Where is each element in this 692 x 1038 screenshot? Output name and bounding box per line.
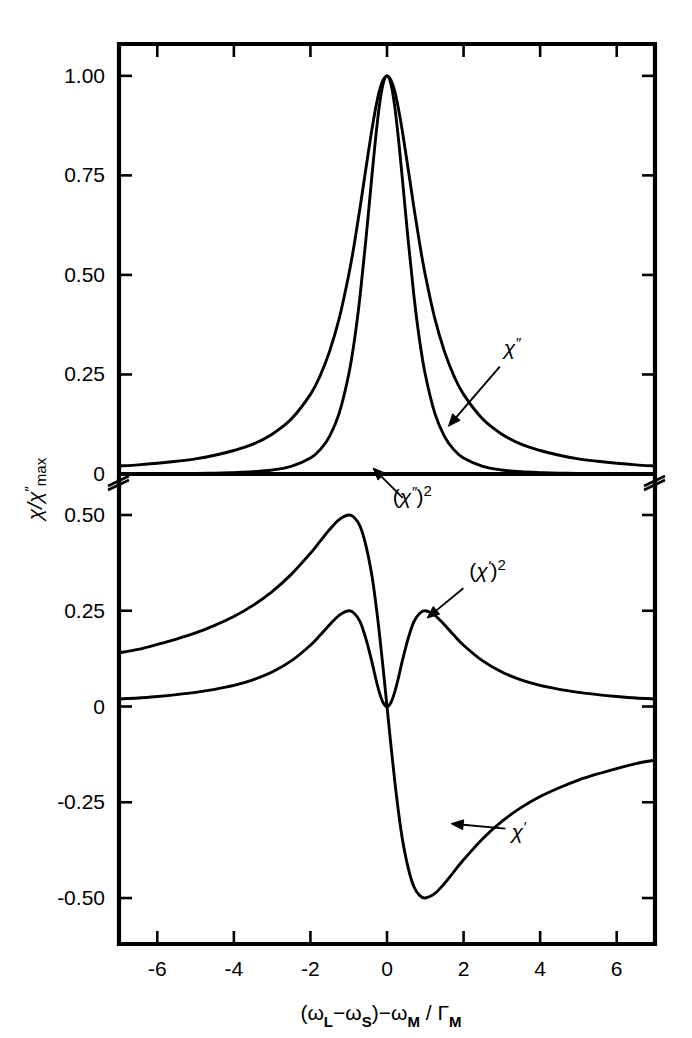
xtick-label: -6 — [148, 957, 167, 980]
plot-frames: 00.250.500.751.00-0.50-0.2500.250.50-6-4… — [21, 44, 665, 1030]
ytick-label-upper: 0.50 — [64, 263, 105, 286]
lower-panel-xticks: -6-4-20246χ″ (χ″ )2(χ′ )2χ′ χ/χ″max(ωL −… — [21, 76, 655, 1030]
susceptibility-lineshape-figure: 00.250.500.751.00-0.50-0.2500.250.50-6-4… — [0, 0, 692, 1038]
xtick-label: 0 — [381, 957, 393, 980]
curve- — [119, 76, 655, 474]
lower-panel-yticks: -0.50-0.2500.250.50-6-4-20246χ″ (χ″ )2(χ… — [21, 76, 655, 1030]
ytick-label-upper: 0.25 — [64, 362, 105, 385]
y-axis-title: χ/χ″max — [21, 457, 49, 522]
upper-panel-xticks: -0.50-0.2500.250.50-6-4-20246χ″ (χ″ )2(χ… — [21, 44, 655, 1030]
prime-mark: ′ — [523, 818, 527, 835]
ytick-label-lower: 0.25 — [64, 599, 105, 622]
x-axis-title: (ωL −ωS )−ωM / ΓM — [300, 1001, 461, 1030]
annotation-lower-1-label: χ′ — [509, 818, 526, 843]
annotation-lower-1-arrowhead — [451, 820, 463, 830]
superscript-two: 2 — [424, 482, 432, 499]
ytick-label-upper: 0 — [93, 462, 105, 485]
xtick-label: -2 — [301, 957, 320, 980]
ytick-label-lower: -0.25 — [57, 790, 105, 813]
annotation-upper-0-label: χ″ — [502, 334, 521, 359]
upper-panel-yticks: 00.250.500.751.00-0.50-0.2500.250.50-6-4… — [21, 44, 655, 1030]
prime-mark: ″ — [515, 334, 521, 351]
annotation-lower-0-label: (χ′ )2 — [469, 556, 506, 582]
xtick-label: 6 — [611, 957, 623, 980]
annotation-upper-1-label: (χ″ )2 — [393, 482, 432, 508]
upper-panel-frame — [119, 44, 655, 474]
ytick-label-lower: 0 — [93, 695, 105, 718]
figure-root: 00.250.500.751.00-0.50-0.2500.250.50-6-4… — [0, 0, 692, 1038]
upper-panel-annotations: χ″ (χ″ )2(χ′ )2χ′ χ/χ″max(ωL −ωS )−ωM / … — [21, 334, 527, 1030]
xtick-label: -4 — [225, 957, 244, 980]
xtick-label: 2 — [458, 957, 470, 980]
ytick-label-upper: 0.75 — [64, 163, 105, 186]
ytick-label-lower: -0.50 — [57, 886, 105, 909]
upper-panel-curves: χ″ (χ″ )2(χ′ )2χ′ χ/χ″max(ωL −ωS )−ωM / … — [21, 76, 655, 1030]
ytick-label-upper: 1.00 — [64, 64, 105, 87]
ytick-label-lower: 0.50 — [64, 503, 105, 526]
superscript-two: 2 — [498, 556, 506, 573]
annotation-lower-0-leader — [436, 588, 463, 610]
xtick-label: 4 — [534, 957, 546, 980]
lower-panel-curves: χ″ (χ″ )2(χ′ )2χ′ χ/χ″max(ωL −ωS )−ωM / … — [21, 334, 655, 1030]
curve- — [119, 76, 655, 466]
